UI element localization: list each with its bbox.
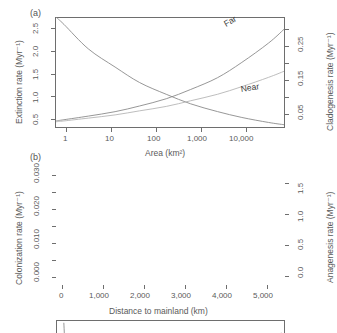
panel-a-x-tick-1: 10 bbox=[105, 134, 114, 143]
panel-b-x-tickmark-5 bbox=[267, 285, 268, 289]
panel-a-plot-area bbox=[55, 17, 285, 128]
panel-a-x-tick-4: 10,000 bbox=[229, 134, 253, 143]
panel-b-right-tick-2: 1.0 bbox=[296, 211, 305, 222]
panel-b-x-tick-0: 0 bbox=[59, 291, 63, 300]
panel-b-x-tick-2: 2,000 bbox=[130, 291, 150, 300]
panel-b-x-tickmark-1 bbox=[103, 285, 104, 289]
panel-b-right-tick-0: 0.0 bbox=[296, 267, 305, 278]
extinction-rate-curve bbox=[56, 17, 284, 125]
panel-b-left-tick-0: 0.000 bbox=[32, 262, 41, 282]
panel-b-left-tickmark-0 bbox=[52, 277, 56, 278]
panel-a-right-tick-2: 0.25 bbox=[296, 36, 305, 52]
panel-a-x-tickmark-0 bbox=[66, 128, 67, 132]
panel-b-right-tickmark-2 bbox=[285, 214, 289, 215]
cladogenesis-near-curve bbox=[56, 71, 284, 121]
panel-b-left-tickmark-m1 bbox=[52, 226, 56, 227]
panel-b-tag: (b) bbox=[30, 152, 41, 162]
panel-b-x-tickmark-2 bbox=[144, 285, 145, 289]
panel-a-tag: (a) bbox=[30, 8, 41, 18]
panel-a-x-tickmark-1 bbox=[111, 128, 112, 132]
panel-b-left-tickmark-m2 bbox=[52, 192, 56, 193]
panel-a-left-tick-2: 1.5 bbox=[31, 69, 40, 80]
panel-a-right-tick-1: 0.15 bbox=[296, 70, 305, 86]
panel-b-left-tickmark-m0 bbox=[52, 260, 56, 261]
panel-a-left-tick-0: 0.5 bbox=[31, 114, 40, 125]
figure-container: (a) Extinction rate (Myr⁻¹) Cladogenesis… bbox=[0, 0, 337, 333]
panel-a-left-tick-4: 2.5 bbox=[31, 23, 40, 34]
cladogenesis-far-curve bbox=[56, 29, 284, 121]
panel-b: (b) Colonization rate (Myr⁻¹) Anagenesis… bbox=[0, 150, 337, 333]
panel-a-curves bbox=[56, 18, 284, 127]
panel-a-x-tickmark-4 bbox=[246, 128, 247, 132]
panel-a-right-tickmark-0 bbox=[285, 114, 289, 115]
panel-b-right-tickmark-3 bbox=[285, 183, 289, 184]
panel-a-right-tickmark-1 bbox=[285, 80, 289, 81]
panel-a-x-tick-2: 100 bbox=[147, 134, 160, 143]
panel-a-left-tick-1: 1.0 bbox=[31, 92, 40, 103]
panel-b-x-tick-1: 1,000 bbox=[89, 291, 109, 300]
panel-b-plot-area bbox=[56, 320, 285, 333]
panel-a-left-axis-title: Extinction rate (Myr⁻¹) bbox=[14, 40, 24, 124]
panel-a-right-tickmark-m1 bbox=[285, 63, 289, 64]
panel-a-right-tick-0: 0.05 bbox=[296, 104, 305, 120]
panel-b-right-tickmark-0 bbox=[285, 276, 289, 277]
panel-a-x-tickmark-3 bbox=[201, 128, 202, 132]
panel-a: (a) Extinction rate (Myr⁻¹) Cladogenesis… bbox=[0, 0, 337, 170]
panel-b-left-tickmark-1 bbox=[52, 243, 56, 244]
panel-b-x-tickmark-4 bbox=[226, 285, 227, 289]
panel-b-x-tick-4: 4,000 bbox=[212, 291, 232, 300]
panel-b-left-tick-1: 0.010 bbox=[32, 229, 41, 249]
panel-b-left-tickmark-2 bbox=[52, 209, 56, 210]
panel-b-x-tick-5: 5,000 bbox=[253, 291, 273, 300]
panel-b-left-tickmark-3 bbox=[52, 175, 56, 176]
panel-b-left-axis-title: Colonization rate (Myr⁻¹) bbox=[14, 191, 24, 285]
panel-a-x-tick-3: 1,000 bbox=[187, 134, 207, 143]
panel-a-x-tick-0: 1 bbox=[63, 134, 67, 143]
panel-a-right-tickmark-m0 bbox=[285, 97, 289, 98]
panel-b-right-tick-1: 0.5 bbox=[296, 239, 305, 250]
panel-b-right-axis-title: Anagenesis rate (Myr⁻¹) bbox=[325, 192, 335, 283]
panel-b-right-tickmark-1 bbox=[285, 245, 289, 246]
panel-b-x-axis-title: Distance to mainland (km) bbox=[109, 306, 208, 316]
panel-b-left-tick-3: 0.030 bbox=[32, 163, 41, 183]
panel-b-x-tickmark-0 bbox=[62, 285, 63, 289]
colonization-rate-curve bbox=[64, 323, 282, 333]
panel-b-left-tick-2: 0.020 bbox=[32, 196, 41, 216]
panel-b-x-tickmark-3 bbox=[185, 285, 186, 289]
panel-b-x-tick-3: 3,000 bbox=[171, 291, 191, 300]
panel-a-right-tickmark-2 bbox=[285, 46, 289, 47]
panel-a-x-tickmark-2 bbox=[156, 128, 157, 132]
panel-a-right-tickmark-m2 bbox=[285, 29, 289, 30]
panel-a-right-axis-title: Cladogenesis rate (Myr⁻¹) bbox=[325, 32, 335, 131]
panel-a-left-tick-3: 2.0 bbox=[31, 46, 40, 57]
panel-b-curves bbox=[57, 321, 284, 333]
panel-b-right-tick-3: 1.5 bbox=[296, 183, 305, 194]
